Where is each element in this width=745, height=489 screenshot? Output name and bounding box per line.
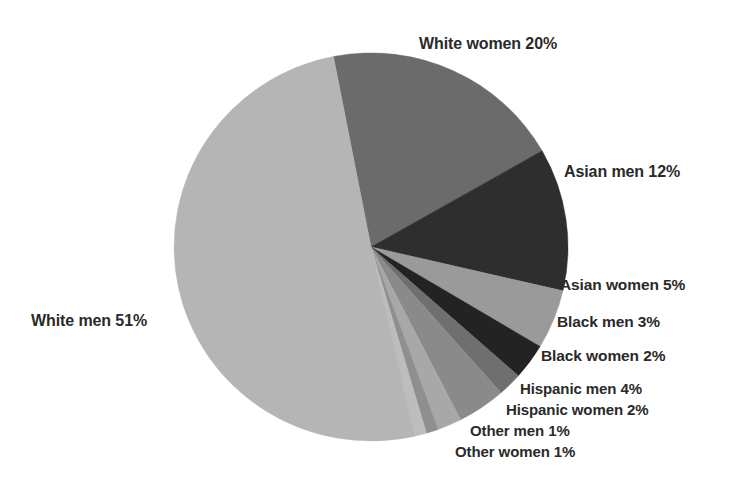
- pie-label-hispanic-men: Hispanic men 4%: [520, 381, 642, 397]
- pie-label-black-women: Black women 2%: [541, 348, 665, 364]
- pie-label-other-men: Other men 1%: [470, 423, 570, 439]
- pie-label-asian-women: Asian women 5%: [560, 277, 685, 293]
- pie-label-white-women: White women 20%: [419, 36, 557, 53]
- pie-chart: White women 20% Asian men 12% Asian wome…: [0, 0, 745, 489]
- pie-slice-group: [174, 53, 568, 441]
- pie-label-white-men: White men 51%: [31, 313, 147, 330]
- pie-label-other-women: Other women 1%: [455, 444, 575, 460]
- pie-label-asian-men: Asian men 12%: [564, 164, 680, 181]
- pie-label-black-men: Black men 3%: [557, 314, 660, 330]
- pie-label-hispanic-women: Hispanic women 2%: [506, 402, 649, 418]
